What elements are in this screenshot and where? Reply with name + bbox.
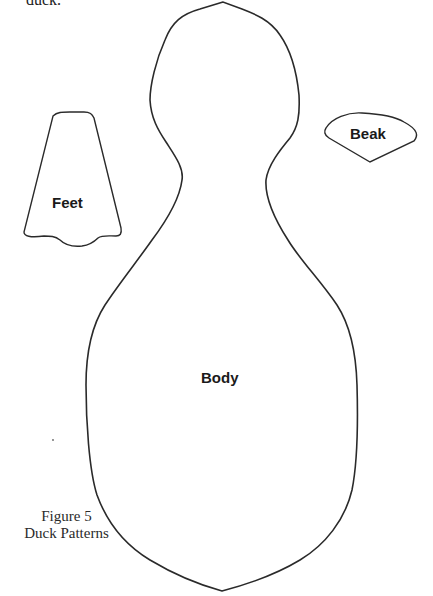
body-label: Body: [201, 369, 239, 386]
figure-title: Duck Patterns: [0, 525, 133, 542]
pattern-diagram: [0, 0, 433, 596]
figure-caption: Figure 5 Duck Patterns: [0, 508, 133, 542]
feet-pattern-outline: [24, 112, 121, 246]
document-page: duck. Feet Beak Body Figure 5 Duck Patte…: [0, 0, 433, 596]
feet-label: Feet: [52, 194, 83, 211]
body-pattern-outline: [86, 2, 357, 591]
figure-number: Figure 5: [0, 508, 133, 525]
beak-label: Beak: [350, 125, 386, 142]
speck-mark: [52, 439, 54, 441]
